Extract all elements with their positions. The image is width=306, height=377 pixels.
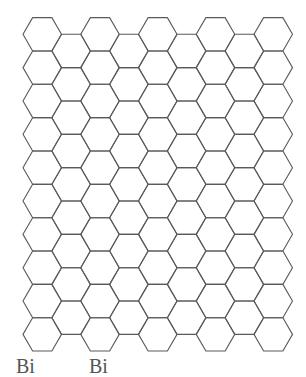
hex-cell [23, 218, 62, 251]
hex-cell [167, 234, 206, 267]
hex-cell [167, 101, 206, 134]
hex-cell [52, 301, 90, 334]
hex-cell [225, 268, 264, 301]
hex-cell [81, 218, 120, 251]
hex-cell [167, 201, 206, 234]
hex-cell [167, 34, 206, 67]
hex-cell [23, 318, 62, 351]
hex-cell [110, 68, 149, 101]
hex-cell [110, 134, 149, 167]
hex-cell [110, 101, 149, 134]
hex-cell [196, 51, 235, 84]
hex-cell [139, 118, 178, 151]
hex-cell [196, 18, 235, 51]
hex-cell [23, 84, 62, 117]
hex-cell [196, 318, 235, 351]
hex-cell [23, 251, 62, 284]
hex-cell [139, 184, 178, 217]
hex-cell [254, 218, 293, 251]
hex-cell [196, 284, 235, 317]
hex-cell [110, 234, 149, 267]
hex-cell [196, 251, 235, 284]
hex-cell [254, 284, 293, 317]
hex-cell [254, 118, 293, 151]
hex-cell [196, 218, 235, 251]
hex-cell [81, 151, 120, 184]
hex-cell [225, 301, 264, 334]
hex-cell [110, 34, 149, 67]
hex-cell [196, 84, 235, 117]
hex-cell [254, 84, 293, 117]
hex-cell [254, 151, 293, 184]
hex-cell [81, 284, 120, 317]
hex-cell [254, 18, 293, 51]
hex-cell [23, 118, 62, 151]
hex-cell [23, 51, 62, 84]
caption-fragment-left: Bi [16, 356, 35, 376]
hex-cell [225, 168, 264, 201]
hex-cell [52, 134, 90, 167]
hex-cell [23, 151, 62, 184]
hex-cell [167, 301, 206, 334]
hex-cell [225, 134, 264, 167]
hex-cell [225, 101, 264, 134]
hex-cell [167, 134, 206, 167]
hex-cell [196, 184, 235, 217]
hex-cell [139, 51, 178, 84]
hex-cell [225, 201, 264, 234]
hex-cell [225, 34, 264, 67]
hex-cell [52, 168, 90, 201]
hex-cell [81, 118, 120, 151]
hex-cell [52, 268, 90, 301]
hex-cell [139, 251, 178, 284]
hex-cell [139, 151, 178, 184]
hex-cell [110, 301, 149, 334]
hex-cell [225, 68, 264, 101]
hex-cell [23, 184, 62, 217]
hex-cell [167, 168, 206, 201]
hex-cell [254, 184, 293, 217]
hex-cell [225, 234, 264, 267]
hex-cell [81, 51, 120, 84]
hex-cell [139, 84, 178, 117]
hex-cell [81, 84, 120, 117]
hex-cell [196, 118, 235, 151]
hex-cell [52, 201, 90, 234]
hex-cell [167, 68, 206, 101]
hex-cell [81, 251, 120, 284]
hex-cell [254, 318, 293, 351]
hex-cell [52, 34, 90, 67]
hex-cell [254, 51, 293, 84]
hex-cell [196, 151, 235, 184]
hex-cell [110, 268, 149, 301]
hex-cell [52, 68, 90, 101]
hex-cell [139, 284, 178, 317]
hex-cell [81, 318, 120, 351]
hex-cell [254, 251, 293, 284]
hex-cell [139, 218, 178, 251]
hex-cell [81, 18, 120, 51]
hex-cell [110, 201, 149, 234]
hex-cell [139, 318, 178, 351]
hex-cell [23, 18, 62, 51]
hex-cell [81, 184, 120, 217]
hex-cell [23, 284, 62, 317]
hex-cell [139, 18, 178, 51]
hex-cell [52, 234, 90, 267]
caption-fragment-right: Bi [89, 356, 108, 376]
hex-cell [110, 168, 149, 201]
hex-cell [52, 101, 90, 134]
hex-cell [167, 268, 206, 301]
